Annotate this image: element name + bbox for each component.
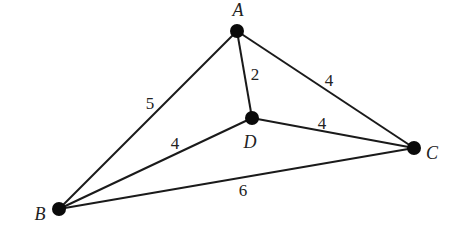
weight-label-d-c: 4 <box>318 114 327 133</box>
node-label-b: B <box>35 204 46 224</box>
node-d <box>245 111 259 125</box>
node-b <box>52 202 66 216</box>
weight-label-a-b: 5 <box>146 94 155 113</box>
node-a <box>230 24 244 38</box>
weight-label-b-c: 6 <box>239 181 248 200</box>
node-label-a: A <box>232 0 245 20</box>
weight-label-a-d: 2 <box>251 65 260 84</box>
node-c <box>407 141 421 155</box>
weight-label-a-c: 4 <box>325 71 334 90</box>
weight-label-b-d: 4 <box>171 134 180 153</box>
edge-b-d <box>59 118 252 209</box>
edge-a-d <box>237 31 252 118</box>
node-label-c: C <box>426 143 439 163</box>
graph-diagram: A B C D 5 2 4 4 4 6 <box>0 0 456 246</box>
node-label-d: D <box>243 132 257 152</box>
